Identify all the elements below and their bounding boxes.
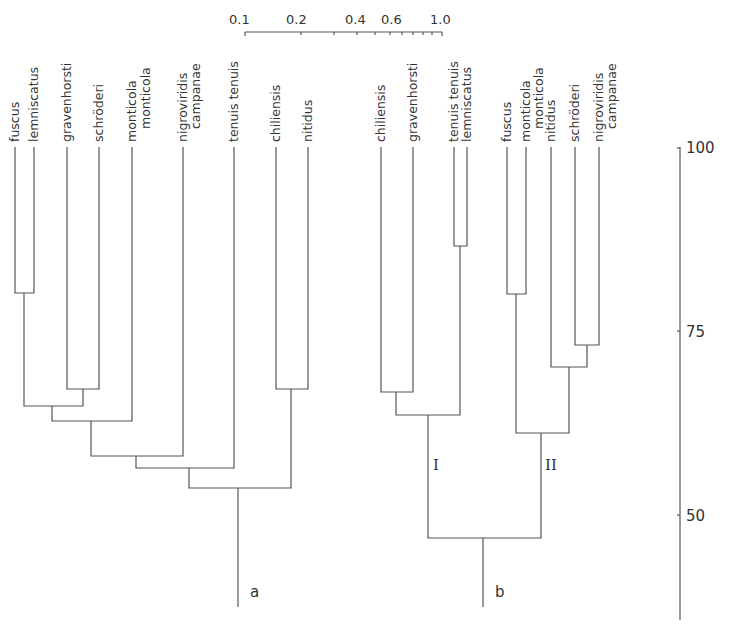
leaf-label: nitidus bbox=[300, 100, 315, 142]
axis-tick-label: 50 bbox=[686, 507, 705, 525]
leaf-label: chiliensis bbox=[373, 85, 388, 142]
similarity-axis: 100 75 50 bbox=[677, 139, 715, 620]
axis-tick-label: 75 bbox=[686, 323, 705, 341]
leaf-label: lemniscatus bbox=[459, 67, 474, 142]
cluster-label-I: I bbox=[433, 456, 439, 474]
leaf-label: schröderi bbox=[567, 84, 582, 142]
leaf-label: monticola bbox=[124, 80, 139, 142]
leaf-label: gravenhorsti bbox=[59, 63, 74, 142]
leaf-label: chiliensis bbox=[268, 85, 283, 142]
leaf-label: tenuis tenuis bbox=[226, 61, 241, 142]
axis-tick-label: 100 bbox=[686, 139, 715, 157]
leaf-label: nitidus bbox=[543, 100, 558, 142]
leaf-label: gravenhorsti bbox=[405, 63, 420, 142]
leaf-label: schröderi bbox=[91, 84, 106, 142]
leaf-label: fuscus bbox=[499, 102, 514, 142]
log-scale-label: 1.0 bbox=[430, 12, 451, 27]
dendrogram-b: chiliensis gravenhorsti tenuis tenuis le… bbox=[373, 61, 619, 607]
leaf-label: monticola bbox=[138, 67, 153, 129]
leaf-label: campanae bbox=[604, 63, 619, 129]
dendrogram-a: fuscus lemniscatus gravenhorsti schröder… bbox=[7, 61, 315, 607]
log-scale: 0.1 0.2 0.4 0.6 1.0 bbox=[229, 12, 451, 36]
log-scale-label: 0.1 bbox=[229, 12, 250, 27]
log-scale-label: 0.4 bbox=[345, 12, 366, 27]
tree-label-b: b bbox=[495, 583, 505, 601]
log-scale-label: 0.6 bbox=[381, 12, 402, 27]
leaf-label: lemniscatus bbox=[26, 67, 41, 142]
cluster-label-II: II bbox=[545, 456, 557, 474]
dendrogram-figure: 0.1 0.2 0.4 0.6 1.0 100 75 50 fuscus lem… bbox=[0, 0, 730, 627]
leaf-label: fuscus bbox=[7, 102, 22, 142]
log-scale-label: 0.2 bbox=[286, 12, 307, 27]
tree-label-a: a bbox=[250, 583, 259, 601]
leaf-label: campanae bbox=[188, 63, 203, 129]
